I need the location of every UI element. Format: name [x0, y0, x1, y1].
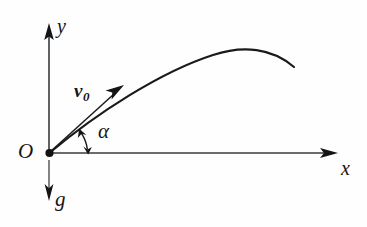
- y-axis-label: y: [57, 16, 66, 36]
- origin-point-marker: [45, 149, 53, 157]
- velocity-label: v0: [74, 81, 89, 103]
- origin-label: O: [18, 141, 33, 162]
- x-axis-label: x: [341, 158, 350, 178]
- projectile-motion-figure: y x O g α v0: [0, 0, 367, 227]
- velocity-subscript: 0: [83, 89, 90, 104]
- launch-angle-label: α: [98, 121, 109, 142]
- velocity-symbol: v: [74, 80, 82, 101]
- gravity-label: g: [55, 189, 66, 210]
